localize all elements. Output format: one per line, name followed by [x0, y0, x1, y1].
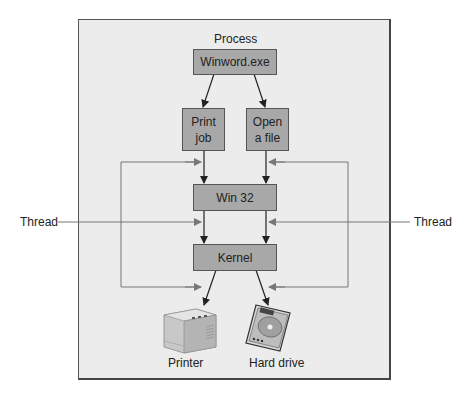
printer-label: Printer	[168, 356, 203, 370]
thread-label-right: Thread	[414, 215, 452, 229]
open-file-node: Open a file	[246, 108, 289, 151]
kernel-node: Kernel	[193, 244, 277, 271]
process-label: Process	[214, 32, 257, 46]
hard-drive-label: Hard drive	[249, 356, 304, 370]
printer-icon	[160, 305, 220, 355]
win32-node: Win 32	[193, 184, 277, 211]
winword-node: Winword.exe	[193, 49, 277, 75]
thread-label-left: Thread	[20, 215, 58, 229]
hard-drive-icon	[244, 303, 294, 353]
print-job-node: Print job	[182, 108, 225, 151]
